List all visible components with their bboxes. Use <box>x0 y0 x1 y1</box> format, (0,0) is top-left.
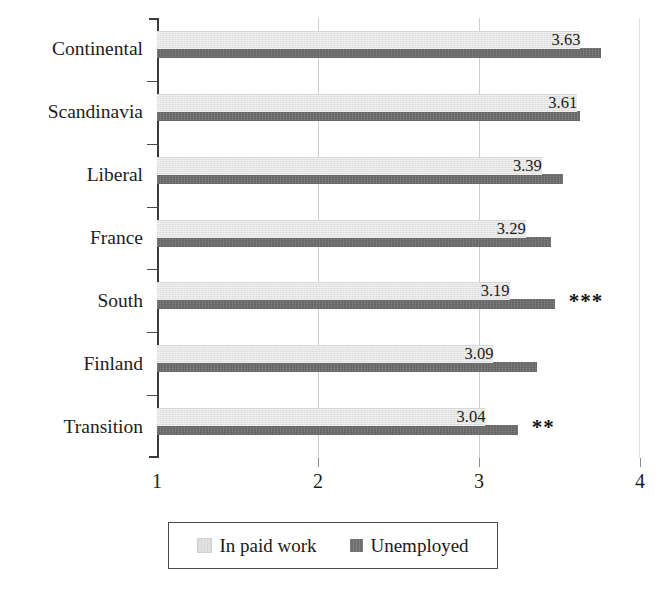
value-tick-4 <box>640 458 641 467</box>
bar-row: France3.29 <box>157 207 640 270</box>
legend-entry-unemployed: Unemployed <box>350 536 468 555</box>
value-tick-label-4: 4 <box>620 471 660 491</box>
category-tick <box>147 207 158 208</box>
category-tick <box>147 81 158 82</box>
category-label-transition: Transition <box>64 416 143 436</box>
legend-entry-in-paid-work: In paid work <box>197 536 316 555</box>
bar-row: Finland3.09 <box>157 332 640 395</box>
bar-in-paid-work-france <box>157 220 526 238</box>
bar-row: South3.19*** <box>157 269 640 332</box>
plot-area: Continental3.63Scandinavia3.61Liberal3.3… <box>157 18 640 458</box>
value-tick-1 <box>157 458 158 467</box>
category-label-france: France <box>90 228 143 248</box>
bar-in-paid-work-finland <box>157 345 493 363</box>
bar-unemployed-transition <box>157 425 518 435</box>
bar-in-paid-work-scandinavia <box>157 94 577 112</box>
bar-unemployed-france <box>157 237 551 247</box>
significance-marker-transition: ** <box>532 417 555 438</box>
category-tick <box>147 395 158 396</box>
bar-unemployed-scandinavia <box>157 111 580 121</box>
bar-unemployed-south <box>157 299 555 309</box>
category-label-scandinavia: Scandinavia <box>48 102 143 122</box>
bar-in-paid-work-liberal <box>157 157 542 175</box>
category-tick <box>147 332 158 333</box>
chart-figure: Continental3.63Scandinavia3.61Liberal3.3… <box>0 0 664 599</box>
bar-row: Liberal3.39 <box>157 144 640 207</box>
legend-label-in-paid-work: In paid work <box>219 536 316 555</box>
chart-legend: In paid work Unemployed <box>168 522 498 569</box>
value-tick-label-1: 1 <box>137 471 177 491</box>
bar-in-paid-work-transition <box>157 408 485 426</box>
dark-gray-swatch-icon <box>350 539 363 552</box>
category-tick <box>147 144 158 145</box>
bar-in-paid-work-south <box>157 282 510 300</box>
legend-label-unemployed: Unemployed <box>370 536 468 555</box>
bar-row: Transition3.04** <box>157 395 640 458</box>
value-tick-3 <box>479 458 480 467</box>
value-tick-label-2: 2 <box>298 471 338 491</box>
value-tick-label-3: 3 <box>459 471 499 491</box>
significance-marker-south: *** <box>569 291 604 312</box>
bar-unemployed-continental <box>157 48 601 58</box>
bar-unemployed-finland <box>157 362 537 372</box>
value-tick-2 <box>318 458 319 467</box>
bar-unemployed-liberal <box>157 174 563 184</box>
category-tick <box>147 269 158 270</box>
bar-row: Scandinavia3.61 <box>157 81 640 144</box>
category-label-south: South <box>97 291 143 311</box>
light-gray-swatch-icon <box>197 538 212 553</box>
bar-in-paid-work-continental <box>157 31 580 49</box>
category-label-continental: Continental <box>52 39 143 59</box>
category-label-liberal: Liberal <box>87 165 143 185</box>
bar-row: Continental3.63 <box>157 18 640 81</box>
category-label-finland: Finland <box>83 354 143 374</box>
